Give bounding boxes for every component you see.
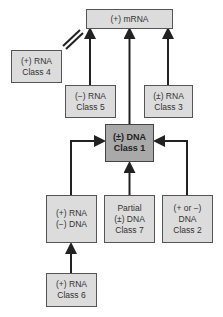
node-class6: (+) RNA Class 6 (46, 273, 97, 307)
node-class5: (−) RNA Class 5 (65, 85, 116, 118)
node-class7: Partial (±) DNA Class 7 (104, 195, 155, 243)
node-class3: (±) RNA Class 3 (144, 85, 193, 118)
arrow-class2-to-class1 (159, 141, 187, 195)
node-rna-dna: (+) RNA (−) DNA (46, 195, 97, 243)
node-class4: (+) RNA Class 4 (11, 50, 62, 83)
node-class2: (+ or −) DNA Class 2 (162, 195, 213, 243)
node-mrna: (+) mRNA (86, 9, 173, 29)
arrow-rnadna-to-class1 (71, 141, 100, 195)
node-class1: (±) DNA Class 1 (105, 124, 154, 162)
